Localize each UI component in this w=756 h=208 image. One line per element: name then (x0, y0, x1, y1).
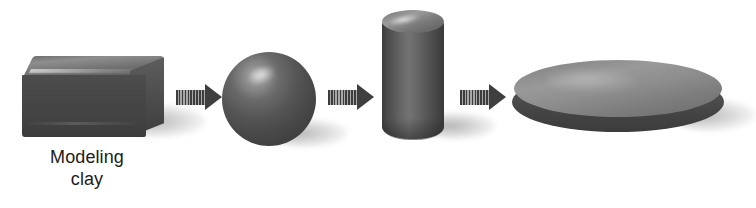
clay-sphere-shape (222, 52, 316, 146)
clay-label-line-2: clay (16, 168, 158, 190)
cylinder-bottom-shading (382, 118, 444, 140)
arrow-tail (328, 90, 358, 105)
arrow-tail (460, 90, 490, 105)
block-front-face (22, 75, 146, 137)
sphere-highlight (247, 63, 277, 87)
clay-label-line-1: Modeling (50, 147, 124, 167)
clay-block-shape (22, 56, 172, 140)
arrow-tail (176, 90, 206, 105)
block-front-seam (24, 122, 140, 125)
modeling-clay-label: Modeling clay (16, 146, 158, 190)
arrow-head (489, 84, 506, 110)
modeling-clay-figure: Modeling clay (0, 0, 756, 208)
arrow-block-to-sphere-icon (176, 84, 222, 110)
arrow-head (205, 84, 222, 110)
disk-top-highlight (546, 70, 638, 92)
clay-cylinder-shape (382, 10, 444, 142)
arrow-sphere-to-cylinder-icon (328, 84, 374, 110)
clay-disk-shape (512, 60, 724, 138)
arrow-head (357, 84, 374, 110)
arrow-cylinder-to-disk-icon (460, 84, 506, 110)
